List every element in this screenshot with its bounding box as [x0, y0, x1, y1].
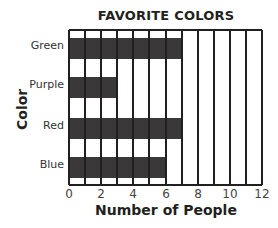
- grid-line-vertical: [181, 30, 183, 185]
- x-axis-label: Number of People: [69, 202, 263, 218]
- grid-line-top: [69, 29, 262, 31]
- grid-line-vertical: [84, 30, 86, 185]
- plot-area: [69, 30, 262, 185]
- grid-line-vertical: [165, 30, 167, 185]
- grid-line-vertical: [245, 30, 247, 185]
- x-tick: 8: [186, 187, 210, 201]
- category-label-red: Red: [43, 119, 64, 132]
- y-axis-label: Color: [14, 90, 30, 130]
- x-tick: 0: [57, 187, 81, 201]
- grid-line-vertical: [116, 30, 118, 185]
- grid-line-vertical: [68, 30, 70, 185]
- x-tick: 2: [89, 187, 113, 201]
- category-label-blue: Blue: [40, 158, 64, 171]
- category-label-purple: Purple: [29, 78, 64, 91]
- grid-line-bottom: [69, 184, 262, 186]
- chart-title: FAVORITE COLORS: [69, 8, 263, 23]
- grid-line-vertical: [261, 30, 263, 185]
- grid-line-vertical: [229, 30, 231, 185]
- grid-line-vertical: [213, 30, 215, 185]
- category-label-green: Green: [31, 39, 64, 52]
- x-tick: 12: [250, 187, 274, 201]
- x-tick: 6: [154, 187, 178, 201]
- grid-line-vertical: [132, 30, 134, 185]
- x-tick: 10: [218, 187, 242, 201]
- grid-line-vertical: [148, 30, 150, 185]
- x-tick: 4: [121, 187, 145, 201]
- grid-line-vertical: [197, 30, 199, 185]
- grid-line-vertical: [100, 30, 102, 185]
- bar-purple: [69, 77, 117, 98]
